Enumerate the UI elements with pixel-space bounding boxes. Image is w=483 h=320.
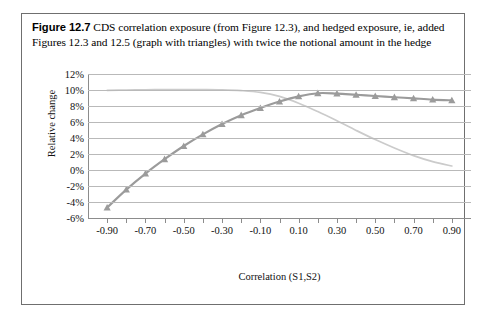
y-axis-tick-label: 4% xyxy=(70,133,84,144)
x-axis-tick-label: -0.70 xyxy=(135,225,157,236)
x-axis-tick xyxy=(414,219,415,223)
y-axis-tick-label: 8% xyxy=(70,101,84,112)
figure-caption-text: CDS correlation exposure (from Figure 12… xyxy=(32,21,445,48)
gridline xyxy=(88,106,471,107)
y-axis-tick-label: 2% xyxy=(70,149,84,160)
y-axis-line xyxy=(88,74,89,218)
chart: Relative change 12%10%8%6%4%2%0%-2%-4%-6… xyxy=(27,66,461,300)
x-axis-title: Correlation (S1,S2) xyxy=(88,271,471,282)
x-axis-tick xyxy=(184,219,185,223)
x-axis-tick-label: -0.90 xyxy=(96,225,118,236)
gridline xyxy=(88,74,471,75)
x-axis-tick xyxy=(375,219,376,223)
x-axis-ticks xyxy=(88,219,471,224)
x-axis-tick-label: 0.90 xyxy=(443,225,461,236)
x-axis-tick xyxy=(394,219,395,223)
x-axis-tick xyxy=(299,219,300,223)
figure-container: Figure 12.7 CDS correlation exposure (fr… xyxy=(21,13,465,305)
x-axis-tick-label: 0.50 xyxy=(366,225,384,236)
x-axis-tick xyxy=(222,219,223,223)
y-axis-tick-label: -4% xyxy=(67,197,85,208)
gridline xyxy=(88,122,471,123)
y-axis-tick-label: -2% xyxy=(67,181,85,192)
gridline xyxy=(88,154,471,155)
x-axis-tick xyxy=(203,219,204,223)
figure-number: Figure 12.7 xyxy=(32,21,91,33)
x-axis-tick xyxy=(165,219,166,223)
x-axis-tick-label: -0.10 xyxy=(249,225,271,236)
x-axis-tick-label: 0.30 xyxy=(328,225,346,236)
x-axis-tick xyxy=(260,219,261,223)
x-axis-tick xyxy=(241,219,242,223)
x-axis-tick-label: 0.10 xyxy=(289,225,307,236)
y-axis-tick-label: 10% xyxy=(65,85,84,96)
y-axis-tick-label: 12% xyxy=(65,69,84,80)
figure-caption: Figure 12.7 CDS correlation exposure (fr… xyxy=(32,20,456,49)
gridline xyxy=(88,186,471,187)
series-layer xyxy=(88,74,471,218)
x-axis-tick xyxy=(107,219,108,223)
x-axis-tick xyxy=(126,219,127,223)
gridline xyxy=(88,202,471,203)
y-axis-tick-label: 6% xyxy=(70,117,84,128)
gridline xyxy=(88,90,471,91)
y-axis-tick-label: 0% xyxy=(70,165,84,176)
x-axis-tick-labels: -0.90-0.70-0.50-0.30-0.100.100.300.500.7… xyxy=(88,225,471,239)
x-axis-tick xyxy=(337,219,338,223)
x-axis-tick-label: -0.30 xyxy=(211,225,233,236)
plot-area xyxy=(88,74,471,218)
x-axis-tick xyxy=(433,219,434,223)
x-axis-tick-label: -0.50 xyxy=(173,225,195,236)
x-axis-tick-label: 0.70 xyxy=(404,225,422,236)
x-axis-tick xyxy=(145,219,146,223)
y-axis-tick-label: -6% xyxy=(67,213,85,224)
x-axis-tick xyxy=(356,219,357,223)
gridline xyxy=(88,170,471,171)
x-axis-tick xyxy=(452,219,453,223)
x-axis-tick xyxy=(318,219,319,223)
y-axis-tick-labels: 12%10%8%6%4%2%0%-2%-4%-6% xyxy=(27,74,84,218)
gridline xyxy=(88,138,471,139)
x-axis-tick xyxy=(280,219,281,223)
series-1 xyxy=(104,90,456,211)
